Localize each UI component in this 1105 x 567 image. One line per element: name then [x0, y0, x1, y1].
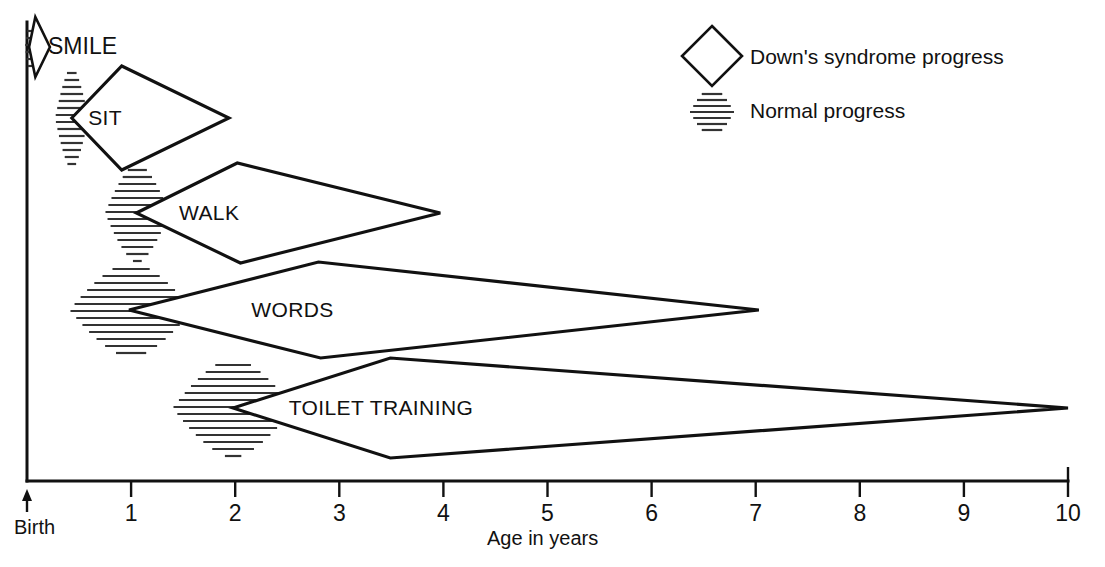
x-tick-label: 4 [437, 500, 450, 526]
x-tick-label: 2 [229, 500, 242, 526]
x-axis-title: Age in years [487, 527, 598, 549]
x-tick-label: 6 [645, 500, 658, 526]
milestone-label-smile: SMILE [48, 33, 117, 59]
x-axis-ticks: 12345678910 [125, 481, 1081, 526]
x-tick-label: 10 [1055, 500, 1081, 526]
chart-canvas: 12345678910 Birth Age in years SMILESITW… [0, 0, 1105, 567]
x-tick-label: 7 [749, 500, 762, 526]
milestone-label-toilet-training: TOILET TRAINING [289, 396, 474, 419]
diamond-outline-icon [682, 26, 742, 86]
x-tick-label: 1 [125, 500, 138, 526]
milestone-label-walk: WALK [179, 201, 239, 224]
x-tick-label: 8 [853, 500, 866, 526]
x-tick-label: 5 [541, 500, 554, 526]
downs-syndrome-progress-shapes [29, 17, 1068, 458]
milestone-label-words: WORDS [251, 298, 334, 321]
downs-progress-diamond [129, 262, 759, 358]
hatch-lens-icon [690, 94, 734, 130]
downs-progress-diamond [29, 17, 50, 77]
legend-label-downs-syndrome: Down's syndrome progress [750, 45, 1004, 68]
milestone-label-sit: SIT [88, 106, 122, 129]
x-tick-label: 3 [333, 500, 346, 526]
legend-label-normal: Normal progress [750, 99, 905, 122]
developmental-milestones-chart: 12345678910 Birth Age in years SMILESITW… [0, 0, 1105, 567]
x-tick-label: 9 [958, 500, 971, 526]
legend: Down's syndrome progress Normal progress [682, 26, 1004, 130]
birth-label: Birth [14, 516, 55, 538]
